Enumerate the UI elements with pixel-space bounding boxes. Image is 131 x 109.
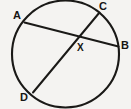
vertex-label-a: A [13,10,21,21]
vertex-label-c: C [99,1,107,12]
geometry-diagram: A C B X D [0,0,131,109]
vertex-label-d: D [20,92,28,103]
vertex-label-b: B [121,40,129,51]
intersection-label-x: X [77,42,84,53]
